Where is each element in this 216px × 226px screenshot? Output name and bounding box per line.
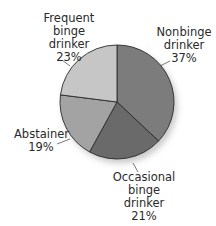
label-frequent-binge-drinker: Frequent binge drinker 23% [36, 12, 102, 64]
label-abstainer: Abstainer 19% [14, 128, 68, 154]
label-nonbinge-pct: 37% [152, 52, 216, 65]
label-occasional-binge-drinker: Occasional binge drinker 21% [108, 171, 180, 223]
label-occasional-pct: 21% [108, 210, 180, 223]
label-abstainer-pct: 19% [14, 141, 68, 154]
label-nonbinge-drinker: Nonbinge drinker 37% [152, 26, 216, 65]
label-frequent-pct: 23% [36, 51, 102, 64]
